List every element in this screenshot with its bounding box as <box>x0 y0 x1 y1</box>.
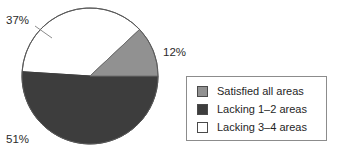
legend-item-satisfied: Satisfied all areas <box>187 82 326 100</box>
pie-label-lacking-1-2: 51% <box>6 134 29 146</box>
legend-swatch-lacking-1-2 <box>197 104 208 115</box>
legend-swatch-satisfied <box>197 86 208 97</box>
legend-item-lacking-3-4: Lacking 3–4 areas <box>187 118 326 136</box>
chart-legend: Satisfied all areas Lacking 1–2 areas La… <box>186 76 327 141</box>
legend-label-lacking-3-4: Lacking 3–4 areas <box>217 122 307 133</box>
pie-label-lacking-3-4: 37% <box>6 15 29 27</box>
legend-swatch-lacking-3-4 <box>197 122 208 133</box>
legend-label-satisfied: Satisfied all areas <box>217 86 304 97</box>
pie-chart-figure: 37% 12% 51% Satisfied all areas Lacking … <box>0 0 338 156</box>
legend-item-lacking-1-2: Lacking 1–2 areas <box>187 100 326 118</box>
pie-label-satisfied: 12% <box>163 47 186 59</box>
pie-slice-lacking-1-2 <box>22 72 158 144</box>
legend-label-lacking-1-2: Lacking 1–2 areas <box>217 104 307 115</box>
